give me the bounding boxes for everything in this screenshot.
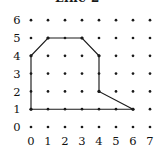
y-tick-label: 3 xyxy=(13,67,20,81)
grid-dot xyxy=(149,37,152,40)
grid-dot xyxy=(132,126,135,129)
grid-dot xyxy=(115,90,118,93)
grid-dot xyxy=(132,72,135,75)
grid-dot xyxy=(149,19,152,22)
grid-dot xyxy=(132,54,135,57)
y-tick-label: 6 xyxy=(13,13,20,27)
grid-dot xyxy=(30,37,33,40)
y-tick-label: 1 xyxy=(13,102,20,116)
grid-dot xyxy=(64,90,67,93)
grid-dot xyxy=(98,126,101,129)
polygon-vertex xyxy=(29,108,32,111)
grid-dot xyxy=(98,37,101,40)
grid-dot xyxy=(47,126,50,129)
grid-dot xyxy=(115,126,118,129)
polygon-vertex xyxy=(80,36,83,39)
polygon-vertex xyxy=(131,108,134,111)
x-tick-label: 6 xyxy=(129,134,136,148)
grid-dot xyxy=(64,54,67,57)
y-tick-label: 5 xyxy=(13,31,20,45)
grid-dot xyxy=(81,90,84,93)
grid-dot xyxy=(81,126,84,129)
polygon-vertex xyxy=(97,90,100,93)
grid-dot xyxy=(81,19,84,22)
y-axis-tick-labels: 0123456 xyxy=(13,13,20,134)
grid-dot xyxy=(149,72,152,75)
y-tick-label: 2 xyxy=(13,85,20,99)
y-tick-label: 0 xyxy=(13,120,20,134)
x-tick-label: 4 xyxy=(95,134,102,148)
x-tick-label: 7 xyxy=(146,134,153,148)
grid-dot xyxy=(149,90,152,93)
plot-area: 0123456 01234567 xyxy=(0,0,155,150)
y-tick-label: 4 xyxy=(13,49,20,63)
grid-dot xyxy=(115,72,118,75)
grid-dot xyxy=(115,37,118,40)
grid-dot xyxy=(47,90,50,93)
grid-dot xyxy=(132,37,135,40)
grid-dot xyxy=(81,72,84,75)
grid-dot xyxy=(149,126,152,129)
grid-dot xyxy=(115,19,118,22)
grid-dot xyxy=(30,126,33,129)
x-tick-label: 2 xyxy=(61,134,68,148)
grid-dot xyxy=(64,126,67,129)
x-tick-label: 5 xyxy=(112,134,119,148)
grid-dot xyxy=(115,54,118,57)
x-axis-tick-labels: 01234567 xyxy=(27,134,153,148)
polygon-vertex xyxy=(46,36,49,39)
chart-figure: Line 2 0123456 01234567 xyxy=(0,0,155,150)
grid-dot xyxy=(149,108,152,111)
x-tick-label: 3 xyxy=(78,134,85,148)
grid-dot-lattice xyxy=(30,19,152,129)
grid-dot xyxy=(81,54,84,57)
grid-dot xyxy=(47,19,50,22)
x-tick-label: 0 xyxy=(27,134,34,148)
polygon-vertex xyxy=(29,54,32,57)
grid-dot xyxy=(64,19,67,22)
grid-dot xyxy=(30,19,33,22)
polygon-vertex xyxy=(97,54,100,57)
grid-dot xyxy=(98,19,101,22)
grid-dot xyxy=(132,90,135,93)
grid-dot xyxy=(64,72,67,75)
grid-dot xyxy=(132,19,135,22)
grid-dot xyxy=(47,72,50,75)
x-tick-label: 1 xyxy=(44,134,51,148)
grid-dot xyxy=(47,54,50,57)
grid-dot xyxy=(149,54,152,57)
